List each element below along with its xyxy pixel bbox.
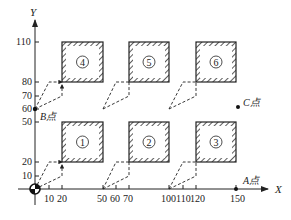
y-tick-20: 20 <box>22 156 32 167</box>
box-1-label: 1 <box>80 137 85 148</box>
approach-paths-upper <box>35 82 196 109</box>
box-4: 4 <box>62 42 103 82</box>
x-axis-label: X <box>274 183 283 195</box>
x-tick-120: 120 <box>190 193 205 204</box>
box-4-label: 4 <box>80 57 85 68</box>
box-6-label: 6 <box>214 57 219 68</box>
y-tick-60: 60 <box>22 103 32 114</box>
x-tick-50: 50 <box>97 193 107 204</box>
box-2: 2 <box>129 122 169 162</box>
box-5-label: 5 <box>147 57 152 68</box>
y-tick-80: 80 <box>22 76 32 87</box>
x-tick-20: 20 <box>57 193 67 204</box>
point-b: B点 <box>33 107 57 122</box>
x-tick-110: 110 <box>176 193 191 204</box>
y-tick-50: 50 <box>22 116 32 127</box>
x-tick-150: 150 <box>230 193 245 204</box>
box-2-label: 2 <box>147 137 152 148</box>
approach-paths-lower <box>35 162 196 189</box>
y-axis-label: Y <box>30 6 38 18</box>
origin-marker <box>30 184 40 194</box>
x-tick-70: 70 <box>123 193 133 204</box>
point-c: C点 <box>236 97 261 109</box>
box-3: 3 <box>196 122 236 162</box>
box-1: 1 <box>62 122 103 162</box>
path-diagram: X Y 110 80 70 60 50 20 10 10 20 50 60 70… <box>0 0 291 220</box>
x-ticks: 10 20 50 60 70 100 110 120 150 <box>44 185 245 204</box>
point-a-label: A点 <box>242 175 260 186</box>
point-c-label: C点 <box>243 97 261 108</box>
x-tick-60: 60 <box>110 193 120 204</box>
box-6: 6 <box>196 42 236 82</box>
x-tick-10: 10 <box>44 193 54 204</box>
y-tick-110: 110 <box>16 36 31 47</box>
y-tick-70: 70 <box>22 90 32 101</box>
y-tick-10: 10 <box>22 170 32 181</box>
box-3-label: 3 <box>214 137 219 148</box>
x-tick-100: 100 <box>161 193 176 204</box>
point-b-label: B点 <box>40 111 57 122</box>
box-5: 5 <box>129 42 169 82</box>
